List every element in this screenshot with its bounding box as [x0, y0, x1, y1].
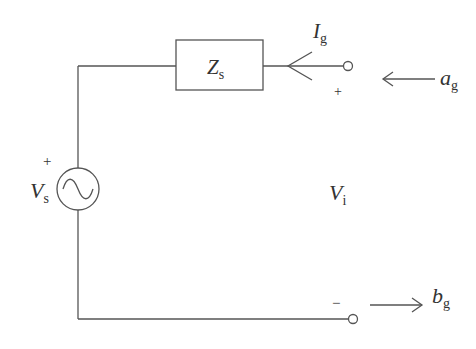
terminal-voltage-label: Vi — [329, 180, 346, 208]
current-label: Ig — [312, 19, 327, 46]
circuit-diagram: Zs Ig + ag + Vs Vi − bg — [0, 0, 476, 349]
impedance-box — [176, 40, 263, 90]
bottom-terminal — [349, 315, 358, 324]
reflected-wave-label: bg — [432, 283, 450, 311]
source-plus: + — [43, 153, 51, 169]
incident-wave-label: ag — [440, 65, 458, 93]
sine-wave-icon — [63, 179, 93, 199]
top-terminal — [344, 62, 353, 71]
terminal-minus: − — [332, 295, 340, 311]
source-voltage-label: Vs — [30, 178, 49, 206]
impedance-label: Zs — [207, 55, 224, 82]
terminal-plus: + — [334, 84, 342, 99]
